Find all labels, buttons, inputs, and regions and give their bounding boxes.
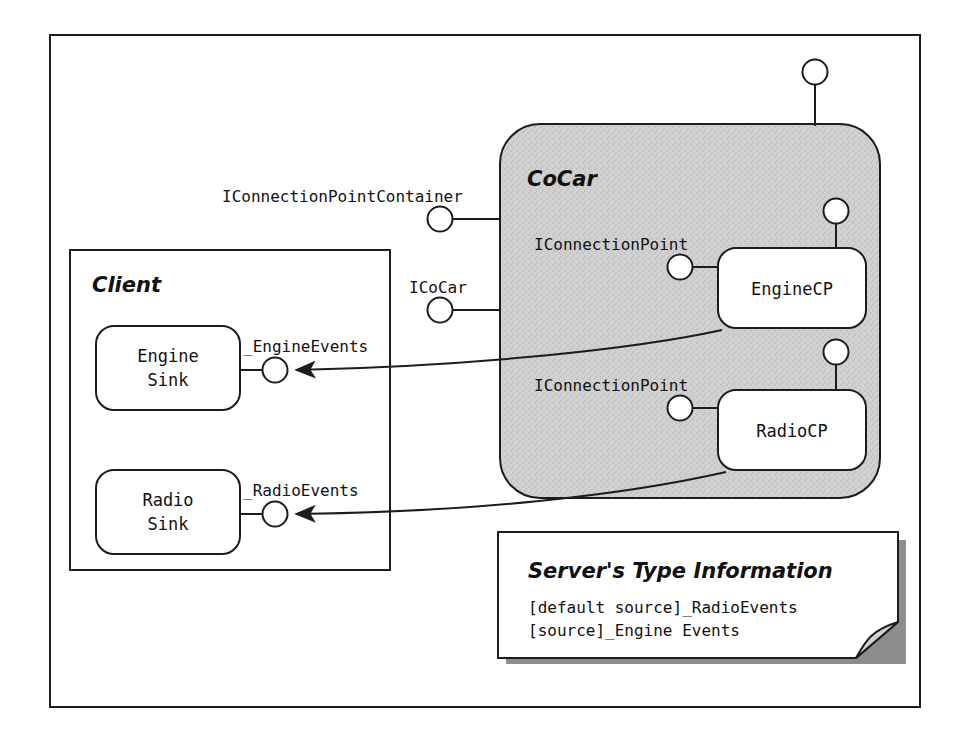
radio-sink-label-line2: Sink — [148, 514, 189, 534]
figure-canvas: CoCar IConnectionPointContainer ICoCar E… — [0, 0, 967, 749]
note-line-2: [source]_Engine Events — [528, 621, 740, 640]
engineevents-label: _EngineEvents — [243, 337, 368, 356]
unlabeled-interface-lollipop — [803, 60, 828, 85]
iconnectionpointcontainer-lollipop — [428, 207, 453, 232]
com-connection-point-diagram: CoCar IConnectionPointContainer ICoCar E… — [0, 0, 967, 749]
engine-sink-label-line1: Engine — [137, 346, 198, 366]
iconnectionpointcontainer-label: IConnectionPointContainer — [222, 187, 463, 206]
enginecp-iconnectionpoint-lollipop — [668, 255, 693, 280]
radiocp-top-lollipop — [824, 340, 849, 365]
enginecp-top-lollipop — [824, 199, 849, 224]
client-title: Client — [92, 273, 162, 297]
radioevents-lollipop — [263, 502, 288, 527]
note-line-1: [default source]_RadioEvents — [528, 598, 798, 617]
radiocp-iconnectionpoint-lollipop — [668, 396, 693, 421]
note-title: Server's Type Information — [528, 559, 833, 583]
engineevents-lollipop — [263, 358, 288, 383]
radio-sink-box — [96, 470, 240, 554]
enginecp-iconnectionpoint-label: IConnectionPoint — [534, 235, 688, 254]
radio-sink-label-line1: Radio — [142, 490, 193, 510]
engine-sink-box — [96, 326, 240, 410]
enginecp-label: EngineCP — [751, 279, 833, 299]
icocar-lollipop — [428, 298, 453, 323]
server-type-information-note: Server's Type Information [default sourc… — [498, 532, 906, 664]
radiocp-label: RadioCP — [756, 421, 828, 441]
radioevents-label: _RadioEvents — [243, 481, 359, 500]
icocar-label: ICoCar — [409, 278, 467, 297]
cocar-title: CoCar — [527, 167, 598, 191]
engine-sink-label-line2: Sink — [148, 370, 189, 390]
radiocp-iconnectionpoint-label: IConnectionPoint — [534, 376, 688, 395]
